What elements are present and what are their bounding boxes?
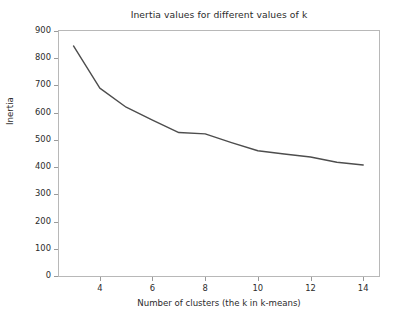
y-tick-label: 300 (35, 188, 51, 198)
y-tick-label: 600 (35, 107, 51, 117)
y-tick-mark (54, 167, 58, 168)
x-axis-title: Number of clusters (the k in k-means) (58, 298, 380, 308)
y-tick-mark (54, 58, 58, 59)
x-tick-mark (100, 277, 101, 281)
plot-svg (59, 31, 379, 276)
y-tick-label: 700 (35, 79, 51, 89)
y-tick-label: 400 (35, 161, 51, 171)
x-tick-label: 8 (191, 283, 219, 293)
chart-figure: Inertia values for different values of k… (0, 0, 395, 326)
x-axis: 468101214 (58, 277, 380, 299)
y-axis: 0100200300400500600700800900 (0, 30, 58, 277)
y-tick-label: 200 (35, 216, 51, 226)
x-tick-label: 14 (349, 283, 377, 293)
chart-title: Inertia values for different values of k (58, 9, 380, 20)
x-tick-label: 6 (138, 283, 166, 293)
y-tick-mark (54, 85, 58, 86)
y-tick-mark (54, 31, 58, 32)
x-tick-mark (363, 277, 364, 281)
y-tick-label: 900 (35, 25, 51, 35)
inertia-line-series (73, 46, 363, 165)
x-tick-mark (311, 277, 312, 281)
y-tick-mark (54, 222, 58, 223)
y-tick-mark (54, 140, 58, 141)
x-tick-label: 10 (244, 283, 272, 293)
y-tick-mark (54, 194, 58, 195)
y-tick-mark (54, 113, 58, 114)
plot-area (58, 30, 380, 277)
y-tick-mark (54, 249, 58, 250)
y-tick-label: 0 (46, 270, 51, 280)
x-tick-label: 12 (297, 283, 325, 293)
y-tick-label: 800 (35, 52, 51, 62)
x-tick-label: 4 (86, 283, 114, 293)
x-tick-mark (258, 277, 259, 281)
y-tick-label: 500 (35, 134, 51, 144)
y-axis-title: Inertia (5, 97, 15, 125)
x-tick-mark (152, 277, 153, 281)
x-tick-mark (205, 277, 206, 281)
y-tick-label: 100 (35, 243, 51, 253)
